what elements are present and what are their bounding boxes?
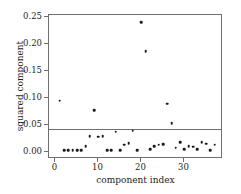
data-point: [166, 102, 169, 105]
data-point: [175, 147, 178, 150]
data-point: [80, 149, 83, 152]
data-point: [97, 135, 100, 138]
data-point: [132, 129, 135, 132]
data-point: [114, 130, 117, 133]
x-axis-tick-label: 0: [52, 163, 57, 172]
data-point: [196, 148, 199, 151]
data-point: [140, 21, 143, 24]
data-point: [106, 149, 109, 152]
data-point: [179, 141, 182, 144]
x-axis-tick-label: 30: [178, 163, 189, 172]
y-axis-tick-label: 0.05: [23, 119, 42, 128]
data-point: [63, 149, 66, 152]
data-point: [209, 149, 212, 152]
data-point: [187, 145, 190, 148]
x-axis-tick-label: 20: [135, 163, 146, 172]
data-point: [101, 135, 104, 138]
data-point: [200, 141, 203, 144]
data-point: [67, 149, 70, 152]
y-axis-tick-label: 0.25: [23, 12, 42, 21]
data-point: [213, 143, 216, 146]
y-axis-tick-label: 0.20: [23, 39, 42, 48]
y-axis-tick-label: 0.10: [23, 93, 42, 102]
data-point: [119, 149, 122, 152]
x-axis-tick-label: 10: [92, 163, 103, 172]
data-point: [205, 142, 208, 145]
threshold-line: [49, 129, 221, 130]
x-axis: component index 0102030: [48, 158, 223, 194]
data-point: [93, 109, 96, 112]
data-point: [110, 149, 113, 152]
y-axis-tick-label: 0.15: [23, 66, 42, 75]
y-axis-tick-label: 0.00: [23, 146, 42, 155]
data-point: [192, 145, 195, 148]
data-point: [157, 143, 160, 146]
data-point: [153, 145, 156, 148]
data-point: [127, 142, 130, 145]
data-point: [183, 148, 186, 151]
data-point: [84, 145, 87, 148]
data-point: [71, 149, 74, 152]
data-point: [144, 50, 147, 53]
x-axis-title: component index: [48, 176, 223, 185]
data-point: [162, 143, 165, 146]
plot-area: [49, 15, 221, 157]
data-point: [89, 135, 92, 138]
data-point: [136, 149, 139, 152]
data-point: [123, 143, 126, 146]
data-point: [76, 149, 79, 152]
y-axis: 0.000.050.100.150.200.25: [0, 14, 48, 159]
data-point: [58, 99, 61, 102]
data-point: [149, 148, 152, 151]
plot-frame: [48, 14, 222, 158]
scatter-chart-figure: squared component 0.000.050.100.150.200.…: [0, 0, 241, 194]
data-point: [170, 122, 173, 125]
